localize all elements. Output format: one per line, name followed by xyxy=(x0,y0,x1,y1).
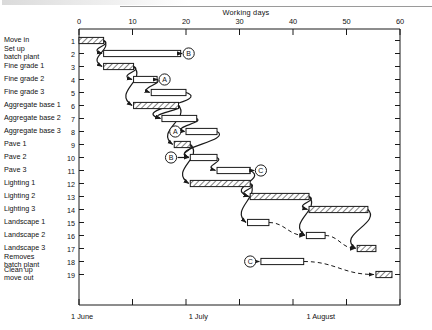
noncritical-bar xyxy=(248,219,269,225)
activity-bar xyxy=(306,232,325,238)
noncritical-bar xyxy=(186,128,217,134)
activity-bar xyxy=(104,50,181,56)
noncritical-bar xyxy=(217,167,250,173)
critical-bar xyxy=(79,37,104,43)
event-node-label: B xyxy=(169,154,174,161)
activity-bar xyxy=(134,102,179,108)
activity-bar xyxy=(174,141,190,147)
noncritical-bar xyxy=(162,115,197,121)
activity-bar xyxy=(190,180,250,186)
critical-bar xyxy=(174,141,190,147)
activity-bar xyxy=(151,89,186,95)
event-node-label: C xyxy=(248,258,253,265)
activity-bar xyxy=(217,167,250,173)
critical-bar xyxy=(376,271,392,277)
event-node-label: C xyxy=(258,167,263,174)
plot-area: BAABCC xyxy=(0,0,432,330)
noncritical-bar xyxy=(104,50,181,56)
activity-bar xyxy=(190,154,217,160)
activity-bar xyxy=(309,206,368,212)
event-node-label: B xyxy=(186,50,191,57)
activity-bar xyxy=(376,271,392,277)
activity-bar xyxy=(357,245,376,251)
activity-bar xyxy=(162,115,197,121)
activity-bar xyxy=(186,128,217,134)
critical-bar xyxy=(134,102,179,108)
noncritical-bar xyxy=(261,258,304,264)
time-scaled-network-chart: Working days 0102030405060 Move inSet up… xyxy=(0,0,432,330)
activity-bar xyxy=(261,258,304,264)
critical-bar xyxy=(309,206,368,212)
noncritical-bar xyxy=(134,76,158,82)
activity-bar xyxy=(250,193,309,199)
event-node-label: A xyxy=(162,76,167,83)
critical-bar xyxy=(357,245,376,251)
critical-bar xyxy=(250,193,309,199)
critical-bar xyxy=(190,180,250,186)
activity-bar xyxy=(134,76,158,82)
activity-bar xyxy=(79,37,104,43)
noncritical-bar xyxy=(306,232,325,238)
activity-bar xyxy=(248,219,269,225)
critical-bar xyxy=(104,63,134,69)
activity-bar xyxy=(104,63,134,69)
noncritical-bar xyxy=(190,154,217,160)
event-node-label: A xyxy=(173,128,178,135)
noncritical-bar xyxy=(151,89,186,95)
